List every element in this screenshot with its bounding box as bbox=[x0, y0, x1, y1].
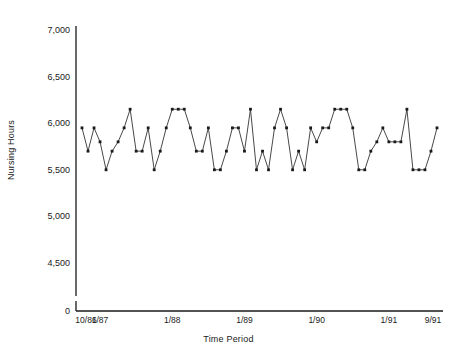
series-segment bbox=[238, 128, 244, 151]
axis-lines bbox=[76, 26, 443, 311]
data-point-marker bbox=[207, 126, 210, 129]
x-tick-label: 1/91 bbox=[381, 315, 398, 325]
data-point-marker bbox=[93, 126, 96, 129]
data-point-marker bbox=[81, 126, 84, 129]
data-point-marker bbox=[369, 150, 372, 153]
data-point-marker bbox=[309, 126, 312, 129]
data-point-marker bbox=[387, 140, 390, 143]
series-segment bbox=[124, 109, 130, 128]
series-segment bbox=[154, 151, 160, 170]
data-point-marker bbox=[231, 126, 234, 129]
data-series-line bbox=[82, 109, 437, 170]
series-segment bbox=[166, 109, 172, 128]
data-point-marker bbox=[225, 150, 228, 153]
data-point-marker bbox=[99, 140, 102, 143]
data-point-marker bbox=[424, 168, 427, 171]
x-tick-label: 1/90 bbox=[308, 315, 325, 325]
series-segment bbox=[250, 109, 256, 170]
series-segment bbox=[160, 128, 166, 151]
data-point-marker bbox=[111, 150, 114, 153]
data-point-marker bbox=[430, 150, 433, 153]
series-segment bbox=[305, 128, 311, 170]
series-segment bbox=[148, 128, 154, 170]
data-point-marker bbox=[249, 108, 252, 111]
series-segment bbox=[353, 128, 359, 170]
data-point-marker bbox=[135, 150, 138, 153]
series-segment bbox=[208, 128, 214, 170]
data-point-marker bbox=[189, 126, 192, 129]
series-segment bbox=[365, 151, 371, 170]
data-point-marker bbox=[375, 140, 378, 143]
series-segment bbox=[383, 128, 389, 142]
series-segment bbox=[190, 128, 196, 151]
data-point-marker bbox=[399, 140, 402, 143]
data-point-marker bbox=[327, 126, 330, 129]
series-segment bbox=[142, 128, 148, 151]
data-point-marker bbox=[129, 108, 132, 111]
data-point-marker bbox=[273, 126, 276, 129]
series-segment bbox=[130, 109, 136, 151]
data-point-marker bbox=[171, 108, 174, 111]
series-segment bbox=[244, 109, 250, 151]
series-segment bbox=[293, 151, 299, 170]
chart-container: Nursing Hours 04,5005,0005,5006,0006,500… bbox=[0, 0, 457, 360]
series-segment bbox=[281, 109, 287, 128]
data-point-marker bbox=[237, 126, 240, 129]
data-point-marker bbox=[213, 168, 216, 171]
data-point-marker bbox=[393, 140, 396, 143]
series-segment bbox=[88, 128, 94, 151]
data-point-marker bbox=[339, 108, 342, 111]
x-tick-label: 9/91 bbox=[425, 315, 442, 325]
data-point-marker bbox=[123, 126, 126, 129]
series-segment bbox=[202, 128, 208, 151]
data-point-marker bbox=[201, 150, 204, 153]
data-point-marker bbox=[261, 150, 264, 153]
data-point-marker bbox=[436, 126, 439, 129]
data-point-marker bbox=[315, 140, 318, 143]
data-point-marker bbox=[147, 126, 150, 129]
series-segment bbox=[287, 128, 293, 170]
data-point-marker bbox=[87, 150, 90, 153]
series-segment bbox=[347, 109, 353, 128]
x-axis-title: Time Period bbox=[0, 334, 457, 344]
series-segment bbox=[275, 109, 281, 128]
series-segment bbox=[94, 128, 100, 142]
series-segment bbox=[226, 128, 232, 151]
data-point-marker bbox=[303, 168, 306, 171]
x-tick-label: 1/89 bbox=[236, 315, 253, 325]
plot-area bbox=[0, 0, 457, 360]
data-point-marker bbox=[357, 168, 360, 171]
data-point-marker bbox=[159, 150, 162, 153]
series-segment bbox=[106, 151, 112, 170]
data-point-marker bbox=[381, 126, 384, 129]
data-point-marker bbox=[412, 168, 415, 171]
x-tick-label: 1/88 bbox=[164, 315, 181, 325]
data-point-marker bbox=[219, 168, 222, 171]
series-segment bbox=[269, 128, 275, 170]
series-segment bbox=[425, 151, 431, 170]
data-point-marker bbox=[177, 108, 180, 111]
x-tick-label: 1/87 bbox=[92, 315, 109, 325]
data-point-marker bbox=[333, 108, 336, 111]
series-segment bbox=[431, 128, 437, 151]
data-point-marker bbox=[117, 140, 120, 143]
series-segment bbox=[263, 151, 269, 170]
data-point-marker bbox=[321, 126, 324, 129]
series-segment bbox=[401, 109, 407, 142]
series-segment bbox=[407, 109, 413, 170]
series-segment bbox=[256, 151, 262, 170]
data-point-marker bbox=[279, 108, 282, 111]
data-point-marker bbox=[267, 168, 270, 171]
series-segment bbox=[82, 128, 88, 151]
data-point-marker bbox=[297, 150, 300, 153]
data-point-marker bbox=[243, 150, 246, 153]
data-point-marker bbox=[195, 150, 198, 153]
data-point-marker bbox=[153, 168, 156, 171]
data-point-marker bbox=[285, 126, 288, 129]
data-point-marker bbox=[291, 168, 294, 171]
data-point-marker bbox=[363, 168, 366, 171]
series-segment bbox=[377, 128, 383, 142]
series-segment bbox=[220, 151, 226, 170]
series-segment bbox=[311, 128, 317, 142]
data-point-marker bbox=[165, 126, 168, 129]
